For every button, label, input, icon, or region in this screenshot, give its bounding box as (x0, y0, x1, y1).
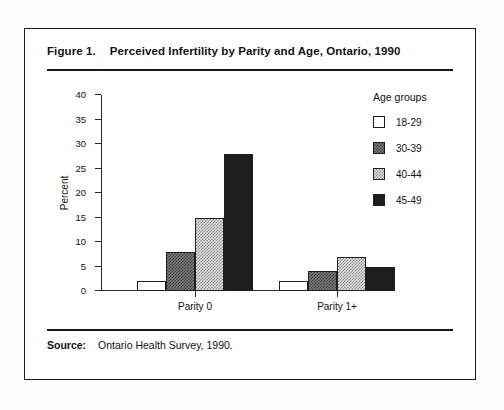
legend-swatch-icon (373, 168, 385, 180)
legend-item-45-49: 45-49 (373, 193, 473, 207)
chart-legend: Age groups 18-2930-3940-4445-49 (373, 91, 473, 219)
legend-entries: 18-2930-3940-4445-49 (373, 115, 473, 207)
legend-swatch-icon (373, 116, 385, 128)
bar-parity-0-45-49 (224, 154, 253, 291)
figure-page: Figure 1.Perceived Infertility by Parity… (0, 0, 504, 410)
y-tick: 25 (95, 168, 101, 169)
y-tick-label: 0 (81, 285, 86, 296)
bar-parity-1--18-29 (279, 281, 308, 291)
y-axis-title-text: Percent (59, 176, 70, 210)
y-tick-label: 10 (75, 236, 86, 247)
y-tick: 20 (95, 192, 101, 193)
y-tick: 30 (95, 143, 101, 144)
legend-title: Age groups (373, 91, 473, 103)
legend-item-label: 45-49 (396, 195, 422, 206)
figure-title-text: Perceived Infertility by Parity and Age,… (110, 45, 401, 57)
legend-swatch-icon (373, 194, 385, 206)
x-category-label: Parity 1+ (317, 301, 357, 312)
legend-item-18-29: 18-29 (373, 115, 473, 129)
x-tick (195, 291, 196, 297)
y-tick-label: 25 (75, 162, 86, 173)
y-tick-label: 20 (75, 187, 86, 198)
source-note: Source:Ontario Health Survey, 1990. (47, 339, 233, 351)
bar-parity-1--45-49 (366, 267, 395, 292)
legend-swatch-icon (373, 142, 385, 154)
y-tick: 35 (95, 119, 101, 120)
y-tick: 0 (95, 290, 101, 291)
bar-parity-1--40-44 (337, 257, 366, 291)
figure-frame: Figure 1.Perceived Infertility by Parity… (24, 28, 476, 380)
source-text: Ontario Health Survey, 1990. (98, 339, 233, 351)
bar-parity-0-30-39 (166, 252, 195, 291)
legend-item-30-39: 30-39 (373, 141, 473, 155)
legend-item-label: 40-44 (396, 169, 422, 180)
chart-plot-area: Percent 0510152025303540 Parity 0Parity … (101, 95, 363, 291)
source-rule (47, 329, 453, 331)
y-tick-label: 30 (75, 138, 86, 149)
bar-parity-0-40-44 (195, 218, 224, 292)
y-tick-label: 5 (81, 260, 86, 271)
title-rule (47, 69, 453, 71)
x-category-label: Parity 0 (178, 301, 212, 312)
y-tick: 10 (95, 241, 101, 242)
figure-title: Figure 1.Perceived Infertility by Parity… (47, 45, 401, 57)
bar-parity-1--30-39 (308, 271, 337, 291)
y-tick-label: 35 (75, 113, 86, 124)
figure-number: Figure 1. (47, 45, 96, 57)
y-tick: 15 (95, 217, 101, 218)
source-label: Source: (47, 339, 86, 351)
y-tick: 40 (95, 94, 101, 95)
bar-parity-0-18-29 (137, 281, 166, 291)
y-tick-label: 40 (75, 89, 86, 100)
legend-item-label: 18-29 (396, 117, 422, 128)
y-tick-label: 15 (75, 211, 86, 222)
legend-item-label: 30-39 (396, 143, 422, 154)
legend-item-40-44: 40-44 (373, 167, 473, 181)
y-tick: 5 (95, 266, 101, 267)
x-tick (337, 291, 338, 297)
y-axis-line (101, 95, 102, 291)
